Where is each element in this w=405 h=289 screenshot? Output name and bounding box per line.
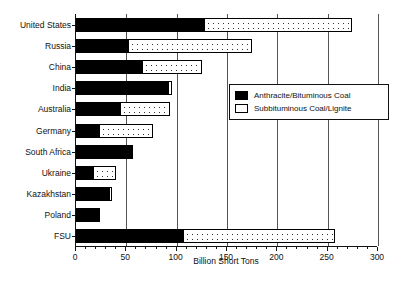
bar-segment-anthracite: [76, 18, 205, 32]
x-axis-minor-tick: [236, 247, 237, 249]
bar-segment-anthracite: [76, 208, 99, 222]
bar-segment-subbituminous: [142, 60, 201, 74]
legend-label-subbituminous: Subbituminous Coal/Lignite: [254, 104, 351, 113]
x-axis-minor-tick: [256, 247, 257, 249]
bar-stack: [76, 39, 252, 53]
x-axis-minor-tick: [115, 247, 116, 249]
y-axis-label: South Africa: [25, 147, 71, 156]
x-axis-minor-tick: [347, 247, 348, 249]
bar-segment-subbituminous: [204, 18, 352, 32]
x-axis-minor-tick: [296, 247, 297, 249]
bar-segment-subbituminous: [93, 166, 116, 180]
x-axis-major-tick: [226, 247, 227, 251]
legend-label-anthracite: Anthracite/Bituminous Coal: [254, 91, 351, 100]
y-axis-label: Poland: [45, 211, 71, 220]
bar-segment-anthracite: [76, 39, 129, 53]
x-axis-minor-tick: [266, 247, 267, 249]
bar-segment-subbituminous: [128, 39, 252, 53]
plot-right-edge: [378, 14, 379, 246]
x-axis-minor-tick: [246, 247, 247, 249]
bar-stack: [76, 229, 335, 243]
bar-stack: [76, 145, 133, 159]
bar-stack: [76, 166, 116, 180]
bar-segment-subbituminous: [98, 208, 100, 222]
x-axis-minor-tick: [307, 247, 308, 249]
x-axis-minor-tick: [105, 247, 106, 249]
bar-stack: [76, 102, 170, 116]
y-axis-label: Australia: [38, 105, 71, 114]
x-axis-major-tick: [276, 247, 277, 251]
legend-item-anthracite: Anthracite/Bituminous Coal: [235, 91, 383, 100]
bar-segment-anthracite: [76, 124, 100, 138]
x-axis-minor-tick: [85, 247, 86, 249]
x-axis-major-tick: [75, 247, 76, 251]
x-axis-minor-tick: [357, 247, 358, 249]
bar-segment-anthracite: [76, 229, 184, 243]
y-axis-label: Germany: [36, 126, 71, 135]
bar-segment-anthracite: [76, 166, 94, 180]
bar-stack: [76, 81, 172, 95]
bar-segment-subbituminous: [99, 124, 152, 138]
plot-area: [75, 14, 377, 247]
legend-item-subbituminous: Subbituminous Coal/Lignite: [235, 104, 383, 113]
y-axis-label: India: [53, 84, 71, 93]
legend: Anthracite/Bituminous Coal Subbituminous…: [229, 84, 389, 120]
bar-segment-subbituminous: [183, 229, 335, 243]
black-square-icon: [235, 91, 248, 100]
bar-segment-anthracite: [76, 81, 169, 95]
bar-segment-anthracite: [76, 145, 133, 159]
x-axis-major-tick: [125, 247, 126, 251]
x-axis-title: Billion Short Tons: [75, 256, 377, 266]
coal-reserves-bar-chart: United StatesRussiaChinaIndiaAustraliaGe…: [0, 0, 405, 289]
y-axis-label: Ukraine: [42, 168, 71, 177]
x-axis-minor-tick: [206, 247, 207, 249]
x-axis-minor-tick: [367, 247, 368, 249]
bar-stack: [76, 124, 153, 138]
y-axis-category-labels: United StatesRussiaChinaIndiaAustraliaGe…: [0, 0, 71, 289]
y-axis-label: United States: [20, 20, 71, 29]
bar-segment-subbituminous: [109, 187, 112, 201]
bar-stack: [76, 187, 112, 201]
bar-segment-subbituminous: [168, 81, 172, 95]
x-axis-minor-tick: [317, 247, 318, 249]
x-axis-minor-tick: [156, 247, 157, 249]
y-axis-label: Kazakhstan: [27, 190, 71, 199]
x-axis-major-tick: [327, 247, 328, 251]
bar-segment-anthracite: [76, 60, 143, 74]
x-axis-minor-tick: [186, 247, 187, 249]
y-axis-label: Russia: [45, 41, 71, 50]
bar-stack: [76, 18, 352, 32]
y-axis-label: China: [49, 62, 71, 71]
x-axis-minor-tick: [196, 247, 197, 249]
gridline: [277, 14, 278, 246]
x-axis-minor-tick: [286, 247, 287, 249]
x-axis-major-tick: [176, 247, 177, 251]
x-axis-minor-tick: [216, 247, 217, 249]
bar-stack: [76, 208, 100, 222]
bar-segment-anthracite: [76, 187, 110, 201]
x-axis-minor-tick: [145, 247, 146, 249]
bar-segment-anthracite: [76, 102, 121, 116]
bar-stack: [76, 60, 202, 74]
x-axis-minor-tick: [166, 247, 167, 249]
x-axis-minor-tick: [135, 247, 136, 249]
x-axis-major-tick: [377, 247, 378, 251]
bar-segment-subbituminous: [120, 102, 169, 116]
x-axis-minor-tick: [95, 247, 96, 249]
y-axis-label: FSU: [54, 232, 71, 241]
gridline: [328, 14, 329, 246]
dotted-square-icon: [235, 104, 248, 113]
x-axis-minor-tick: [337, 247, 338, 249]
